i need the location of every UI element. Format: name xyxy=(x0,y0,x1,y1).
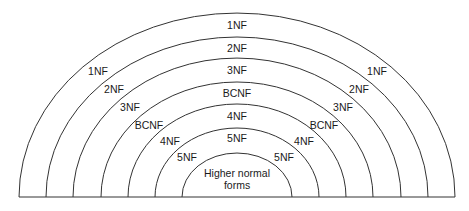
labels-group: 1NF2NF3NFBCNF4NF5NF1NF2NF3NFBCNF4NF5NF1N… xyxy=(88,19,387,191)
label-left-5nf: 5NF xyxy=(177,151,197,163)
label-right-3nf: 3NF xyxy=(333,101,353,113)
label-center-higher-normal: Higher normal xyxy=(204,167,270,179)
label-right-5nf: 5NF xyxy=(274,151,294,163)
label-center-forms: forms xyxy=(224,179,250,191)
label-left-3nf: 3NF xyxy=(120,101,140,113)
label-top-2nf: 2NF xyxy=(227,42,247,54)
label-top-bcnf: BCNF xyxy=(223,87,252,99)
label-top-1nf: 1NF xyxy=(227,19,247,31)
label-right-4nf: 4NF xyxy=(294,135,314,147)
label-right-bcnf: BCNF xyxy=(310,119,339,131)
label-top-5nf: 5NF xyxy=(227,132,247,144)
label-right-2nf: 2NF xyxy=(349,83,369,95)
label-left-4nf: 4NF xyxy=(160,135,180,147)
label-left-2nf: 2NF xyxy=(104,83,124,95)
normal-forms-diagram: 1NF2NF3NFBCNF4NF5NF1NF2NF3NFBCNF4NF5NF1N… xyxy=(0,0,469,211)
label-left-bcnf: BCNF xyxy=(135,119,164,131)
label-right-1nf: 1NF xyxy=(367,65,387,77)
label-top-3nf: 3NF xyxy=(227,64,247,76)
label-left-1nf: 1NF xyxy=(88,65,108,77)
label-top-4nf: 4NF xyxy=(227,110,247,122)
